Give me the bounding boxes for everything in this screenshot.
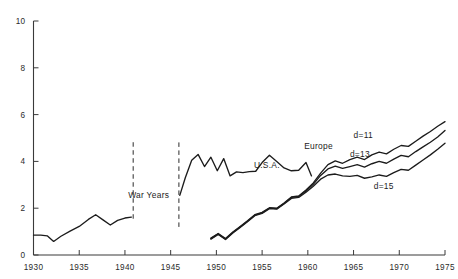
axis-ticks [34,21,446,255]
x-tick-label-1955: 1955 [252,263,272,272]
x-tick-label-1975: 1975 [435,263,455,272]
x-tick-label-1930: 1930 [24,263,44,272]
series-line-u-s-a-pre-war [34,215,132,242]
series-labels: U.S.A.d=11d=13d=15Europe [254,130,394,191]
x-tick-label-1940: 1940 [115,263,135,272]
chart-annotations: War Years [128,190,169,200]
y-tick-label-2: 2 [21,204,26,213]
series-label-europe-d-11: d=11 [354,130,373,140]
axis-tick-labels: 0246810193019351940194519501955196019651… [16,17,455,272]
series-line-europe-d-15 [211,143,445,239]
x-tick-label-1935: 1935 [69,263,89,272]
series-label-europe-d-15: d=15 [374,181,394,191]
series-line-u-s-a [180,154,312,195]
vertical-dividers [133,140,179,227]
x-tick-label-1945: 1945 [161,263,181,272]
axes [34,21,446,255]
y-tick-label-10: 10 [16,17,26,26]
x-tick-label-1960: 1960 [298,263,318,272]
series-line-europe-d-11 [211,122,445,239]
series-label-europe-top-label-anchor: Europe [304,141,333,151]
series-label-europe-d-13: d=13 [350,149,370,159]
x-tick-label-1950: 1950 [207,263,227,272]
y-tick-label-8: 8 [21,64,26,73]
y-tick-label-0: 0 [21,251,26,260]
y-tick-label-6: 6 [21,111,26,120]
chart-container: 0246810193019351940194519501955196019651… [0,0,458,279]
x-tick-label-1965: 1965 [344,263,364,272]
x-tick-label-1970: 1970 [389,263,409,272]
war-years-label: War Years [128,190,169,200]
y-tick-label-4: 4 [21,157,26,166]
line-chart: 0246810193019351940194519501955196019651… [0,0,458,279]
series-label-u-s-a: U.S.A. [254,160,280,170]
